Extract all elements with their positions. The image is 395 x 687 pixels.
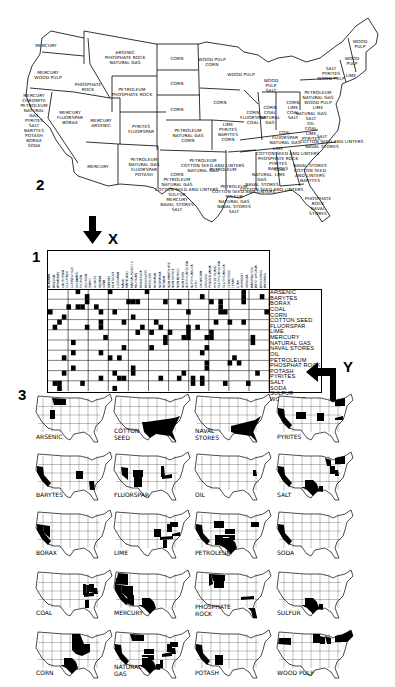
mineral-map-sulfur: SULFUR: [275, 568, 355, 624]
mineral-map-mercury: MERCURY: [112, 568, 192, 624]
state-label-wa: MERCURY: [24, 43, 68, 48]
state-label-id: PHOSPHATEROCK: [66, 82, 110, 92]
state-label-ks: PETROLEUMNATURAL GASCORN: [166, 128, 210, 143]
state-label-ne: CORN: [155, 107, 199, 112]
mineral-map-label: POTASH: [195, 670, 219, 677]
state-label-me: WOODPULP: [338, 39, 382, 49]
mineral-map-label: SULFUR: [277, 610, 301, 617]
state-label-or: MERCURYWOOD PULP: [26, 70, 70, 80]
state-label-mo: LIMEPYRITESBARYTESCORN: [206, 122, 250, 142]
mineral-map-corn: CORN: [34, 628, 114, 684]
state-label-mi: WOODPULPSALT: [249, 78, 293, 93]
matrix-column-header: SOUTH DAKOTA: [223, 252, 228, 288]
state-label-ia: CORN: [198, 100, 242, 105]
state-label-ut: MERCURYARSENIC: [79, 118, 123, 128]
mineral-map-potash: POTASH: [193, 628, 273, 684]
matrix-column-header: MONTANA: [154, 252, 159, 288]
mineral-map-label: CORN: [36, 670, 54, 677]
mineral-map-salt: SALT: [275, 450, 355, 506]
matrix-column-header: LOUISIANA: [117, 252, 122, 288]
matrix-column-header: WYOMING: [264, 252, 269, 288]
state-label-nh: LIME: [329, 73, 373, 78]
mineral-map-soda: SODA: [275, 508, 355, 564]
x-axis-label: X: [108, 230, 118, 247]
mineral-map-label: PYRITES: [277, 434, 301, 441]
mineral-map-label: PETROLEUM: [195, 550, 232, 557]
state-label-ar: PETROLEUM: [201, 167, 245, 172]
mineral-map-phosphate-rock: PHOSPHATEROCK: [193, 568, 273, 624]
state-label-fl: PHOSPHATEROCKNAVALSTORES: [296, 196, 340, 216]
matrix-column-header: VIRGINIA: [246, 252, 251, 288]
matrix-column-header: ILLINOIS: [94, 252, 99, 288]
matrix-column-header: OKLAHOMA: [200, 252, 205, 288]
mineral-map-label: BORAX: [36, 550, 57, 557]
state-label-ga: NAVAL STORESCOTTON SEEDAND LINTERSBARYTE…: [288, 163, 332, 183]
y-axis-label: Y: [343, 358, 353, 375]
mineral-map-borax: BORAX: [34, 508, 114, 564]
figure-3-label: 3: [18, 386, 26, 403]
mineral-map-lime: LIME: [112, 508, 192, 564]
mineral-map-natural-gas: NATURALGAS: [112, 628, 192, 684]
mineral-map-label: OIL: [195, 492, 205, 499]
mineral-map-fluorspar: FLUORSPAR: [112, 450, 192, 506]
matrix-column-header: ALABAMA: [48, 252, 53, 288]
matrix-column-headers: ALABAMAARIZONAARKANSASCALIFORNIACOLORADO…: [48, 251, 269, 290]
mineral-map-coal: COAL: [34, 568, 114, 624]
matrix-column-header: NEW MEXICO: [177, 252, 182, 288]
mineral-map-cotton-seed: COTTONSEED: [112, 392, 192, 448]
figure-1-label: 1: [32, 248, 40, 265]
matrix-column-header: NEVADA: [163, 252, 168, 288]
state-label-mn: WOOD PULPCORN: [190, 57, 234, 67]
state-label-co: PYRITESFLUORSPAR: [119, 124, 163, 134]
mineral-map-label: FLUORSPAR: [114, 492, 149, 499]
state-label-sd: CORN: [155, 81, 199, 86]
mineral-map-label: SALT: [277, 492, 291, 499]
matrix-column-header: MINNESOTA: [140, 252, 145, 288]
mineral-map-label: COAL: [36, 610, 52, 617]
x-arrow-icon: [83, 216, 103, 246]
mineral-map-label: COTTONSEED: [114, 428, 139, 441]
matrix-column-header: CONNECTICUT: [71, 252, 76, 288]
state-mineral-matrix: ALABAMAARIZONAARKANSASCALIFORNIACOLORADO…: [47, 250, 270, 393]
mineral-map-arsenic: ARSENIC: [34, 392, 114, 448]
mineral-map-label: BARYTES: [36, 492, 63, 499]
mineral-map-barytes: BARYTES: [34, 450, 114, 506]
mineral-map-wood-pulp: WOOD PULP: [275, 628, 355, 684]
state-label-wi: WOOD PULP: [219, 72, 263, 77]
state-label-pa: PETROLEUMNATURAL GASWOOD PULPLIME: [296, 90, 340, 110]
mineral-map-label: NAVALSTORES: [195, 428, 219, 441]
mineral-map-label: LIME: [114, 550, 128, 557]
mineral-map-label: WOOD PULP: [277, 670, 314, 677]
state-label-az: MERCURY: [76, 164, 120, 169]
state-label-vt: WOODPULP: [330, 56, 374, 66]
mineral-map-label: MERCURY: [114, 610, 143, 617]
state-label-mt: ARSENICPHOSPHATE ROCKNATURAL GAS: [103, 50, 147, 65]
state-label-tx: CORNPETROLEUMNATURAL GASCOTTON SEED AND …: [155, 172, 199, 212]
matrix-grid: [48, 289, 269, 391]
mineral-map-oil: OIL: [193, 450, 273, 506]
mineral-map-label: NATURALGAS: [114, 664, 142, 677]
mineral-map-pyrites: PYRITES: [275, 392, 355, 448]
state-label-va: SALTCOTTON SEED AND LINTERSNAVAL STORES: [300, 134, 344, 149]
mineral-map-label: SODA: [277, 550, 294, 557]
mineral-map-petroleum: PETROLEUM: [193, 508, 273, 564]
mineral-map-label: ARSENIC: [36, 434, 62, 441]
mineral-map-label: PHOSPHATEROCK: [195, 604, 231, 617]
state-label-wy: PETROLEUMPHOSPHATE ROCK: [110, 87, 154, 97]
mineral-map-naval-stores: NAVALSTORES: [193, 392, 273, 448]
